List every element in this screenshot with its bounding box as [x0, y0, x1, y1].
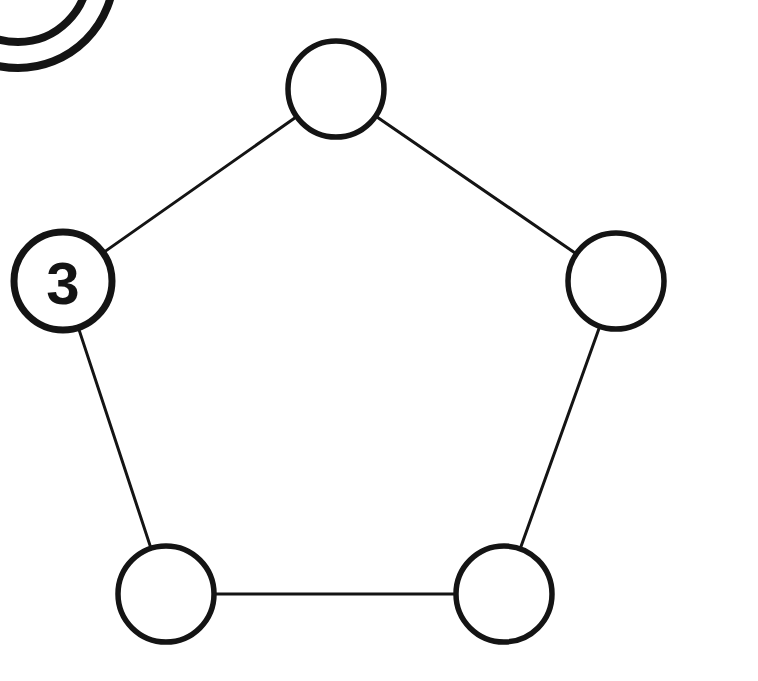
diagram-canvas: 3 [0, 0, 758, 681]
edge-layer [78, 116, 600, 594]
node-bottom-right[interactable] [456, 546, 552, 642]
node-left-labeled-3-label: 3 [46, 250, 79, 317]
edge-left-top [102, 116, 297, 253]
node-bottom-left[interactable] [118, 546, 214, 642]
node-right-circle[interactable] [568, 233, 664, 329]
node-layer: 3 [14, 41, 664, 642]
node-right[interactable] [568, 233, 664, 329]
node-top[interactable] [288, 41, 384, 137]
partial-circle-inner-arc [0, 0, 88, 42]
partial-circle-top-left-corner [0, 0, 114, 68]
edge-right-bottom-right [520, 325, 600, 549]
edge-top-right [375, 116, 577, 255]
node-left-labeled-3[interactable]: 3 [14, 232, 112, 330]
node-bottom-right-circle[interactable] [456, 546, 552, 642]
edge-bottom-left-left [78, 327, 151, 550]
node-top-circle[interactable] [288, 41, 384, 137]
node-bottom-left-circle[interactable] [118, 546, 214, 642]
pentagon-graph-svg: 3 [0, 0, 758, 681]
